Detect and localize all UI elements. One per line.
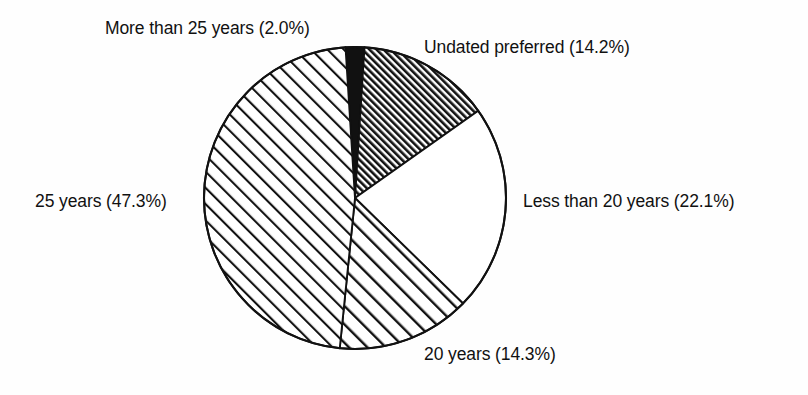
slice-label-20-years: 20 years (14.3%): [424, 345, 556, 364]
slice-label-more-than-25-years: More than 25 years (2.0%): [105, 19, 310, 38]
pie-chart-figure: More than 25 years (2.0%) Undated prefer…: [0, 0, 808, 395]
pie-slice-25-years[interactable]: [204, 47, 355, 348]
slice-label-less-than-20-years: Less than 20 years (22.1%): [523, 192, 734, 211]
slice-label-undated-preferred: Undated preferred (14.2%): [424, 38, 630, 57]
pie-slices-group: [204, 47, 506, 349]
slice-label-25-years: 25 years (47.3%): [35, 192, 167, 211]
